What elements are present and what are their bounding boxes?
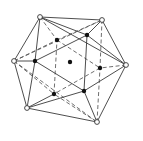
open-vertex-B [100,18,105,23]
vertices [12,15,129,125]
visible-edges [14,17,126,122]
filled-vertex-K [52,92,56,96]
edge-CH [87,35,126,65]
hidden-edge-BI [100,20,102,68]
edge-EL [27,61,35,108]
filled-vertex-O [68,60,72,64]
open-vertex-F [12,59,17,64]
edge-EF [14,61,27,108]
edge-HJ [84,35,87,91]
edge-BH [87,20,102,35]
edge-DE [27,108,97,122]
filled-vertex-I [98,66,102,70]
hidden-edge-GI [57,40,100,68]
filled-vertex-L [33,59,37,63]
icosahedron-diagram [0,0,143,141]
edge-LH [35,35,87,61]
filled-vertex-G [55,38,59,42]
hidden-edge-KG [54,40,57,94]
filled-vertex-H [85,33,89,37]
open-vertex-A [38,15,43,20]
open-vertex-C [124,63,129,68]
hidden-edge-IK [54,68,100,94]
edge-AH [40,17,87,35]
filled-vertex-J [82,89,86,93]
open-vertex-D [95,120,100,125]
open-vertex-E [25,106,30,111]
edge-JL [35,61,84,91]
hidden-edge-DI [97,68,100,122]
edge-AB [40,17,102,20]
